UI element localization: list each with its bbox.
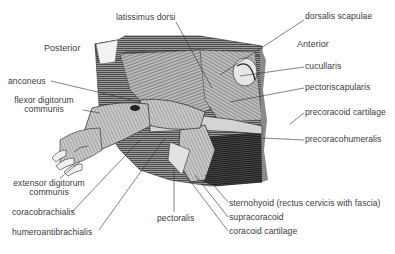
label-extensor-digitorum-communis: extensor digitorum communis: [10, 179, 88, 197]
label-precoracohumeralis: precoracohumeralis: [305, 135, 381, 144]
label-precoracoid-cartilage: precoracoid cartilage: [305, 108, 386, 117]
label-sternohyoid: sternohyoid (rectus cervicis with fascia…: [229, 199, 381, 208]
label-pectoralis: pectoralis: [157, 214, 194, 223]
anatomy-diagram: latissimus dorsi dorsalis scapulae Anter…: [0, 0, 395, 254]
label-flexor-digitorum-communis: flexor digitorum communis: [8, 96, 80, 114]
label-pectoriscapularis: pectoriscapularis: [305, 83, 370, 92]
label-supracoracoid: supracoracoid: [229, 213, 284, 222]
label-coracobrachialis: coracobrachialis: [12, 208, 75, 217]
label-cucullaris: cucullaris: [305, 62, 341, 71]
label-coracoid-cartilage: coracoid cartilage: [229, 227, 297, 236]
label-anconeus: anconeus: [8, 77, 46, 86]
label-extensor-line2: communis: [10, 188, 88, 197]
label-posterior: Posterior: [44, 44, 80, 53]
label-latissimus-dorsi: latissimus dorsi: [116, 13, 176, 22]
label-anterior: Anterior: [297, 40, 329, 49]
label-flexor-line2: communis: [8, 105, 80, 114]
label-dorsalis-scapulae: dorsalis scapulae: [305, 12, 372, 21]
label-humeroantibrachialis: humeroantibrachialis: [12, 228, 92, 237]
